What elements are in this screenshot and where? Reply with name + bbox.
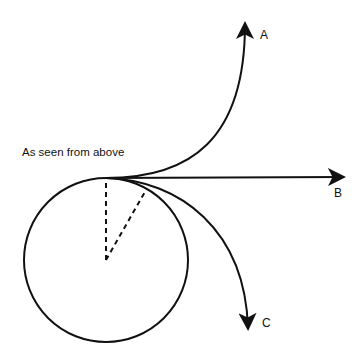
radius-angled-dashed [106, 190, 146, 260]
label-a: A [260, 28, 268, 42]
label-b: B [334, 186, 342, 200]
path-b [106, 177, 343, 178]
diagram-canvas [0, 0, 363, 362]
path-a [106, 24, 245, 178]
diagram-caption: As seen from above [22, 146, 124, 158]
path-c [106, 178, 248, 328]
label-c: C [262, 316, 271, 330]
